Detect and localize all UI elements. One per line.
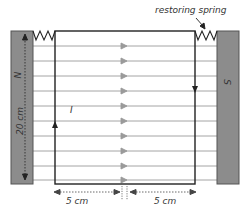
current-down-arrow-icon — [192, 86, 198, 93]
current-label: I — [70, 105, 73, 115]
height-label: 20 cm — [15, 107, 25, 135]
right-width-label: 5 cm — [154, 196, 176, 206]
diagram-root: restoring spring N S 20 cm I 5 cm 5 cm — [0, 0, 249, 210]
north-pole-label: N — [12, 72, 22, 79]
restoring-spring-label: restoring spring — [155, 5, 226, 15]
south-pole-label: S — [222, 79, 232, 85]
left-restoring-spring — [33, 31, 55, 40]
magnetic-field-lines — [33, 43, 217, 183]
diagram-canvas — [0, 0, 249, 210]
right-restoring-spring — [195, 31, 217, 40]
south-magnet — [217, 31, 239, 184]
spring-pointer-arrow — [196, 18, 205, 29]
current-up-arrow-icon — [52, 121, 58, 128]
left-width-label: 5 cm — [66, 196, 88, 206]
